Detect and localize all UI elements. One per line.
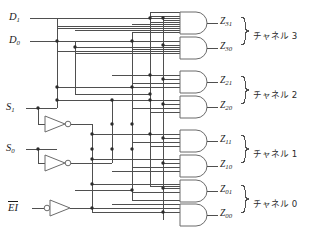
output-label-z11: Z11 [220,134,232,144]
and-gate-z30 [180,37,218,59]
input-label-d0: D0 [9,34,20,45]
and-gate-z01 [180,180,218,202]
output-label-z30: Z30 [220,41,232,51]
circuit-diagram-canvas: D1 D0 S1 S0 EI Z31 Z30 Z21 Z20 Z11 Z10 Z… [0,0,314,231]
and-gate-z10 [180,155,218,177]
output-label-z31: Z31 [220,16,232,26]
and-gate-z20 [180,96,218,118]
channel-label-3: チャネル 3 [253,29,297,41]
output-label-z00: Z00 [220,208,232,218]
and-gate-z00 [180,204,218,226]
and-gate-z31 [180,12,218,34]
vertical-buses [57,12,163,220]
output-label-z21: Z21 [220,75,232,85]
channel-braces [241,17,249,213]
and-gate-z11 [180,130,218,152]
channel-label-0: チャネル 0 [253,197,297,209]
output-label-z20: Z20 [220,100,232,110]
output-label-z01: Z01 [220,184,232,194]
input-label-s1: S1 [6,101,15,112]
channel-label-1: チャネル 1 [253,147,297,159]
output-label-z10: Z10 [220,159,232,169]
channel-label-2: チャネル 2 [253,88,297,100]
input-label-ei: EI [8,201,18,213]
s1-inverter [38,108,92,132]
s0-inverter [38,149,112,171]
input-label-s0: S0 [6,142,15,153]
input-label-d1: D1 [9,11,20,22]
and-gate-z21 [180,71,218,93]
